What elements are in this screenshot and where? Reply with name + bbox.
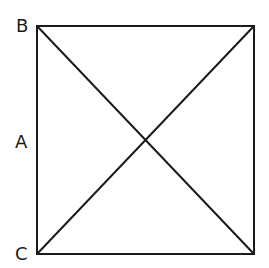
label-b: B xyxy=(16,15,28,36)
label-a: A xyxy=(15,131,28,152)
square-diagram: B A C xyxy=(0,0,269,268)
label-c: C xyxy=(15,243,28,264)
